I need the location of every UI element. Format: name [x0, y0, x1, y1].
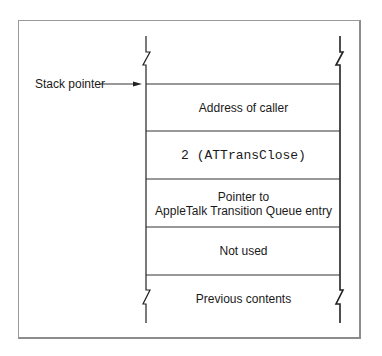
- cell-not-used: Not used: [147, 244, 340, 258]
- cell-line: Address of caller: [147, 101, 340, 115]
- cell-line: 2 (ATTransClose): [147, 149, 340, 163]
- cell-line: AppleTalk Transition Queue entry: [147, 204, 340, 218]
- cell-line: Pointer to: [147, 190, 340, 204]
- cell-line: Not used: [147, 244, 340, 258]
- cell-line: Previous contents: [147, 292, 340, 306]
- cell-selector: 2 (ATTransClose): [147, 149, 340, 163]
- stack-pointer-arrowhead-icon: [133, 82, 142, 87]
- stack-pointer-label: Stack pointer: [35, 77, 105, 91]
- cell-address-of-caller: Address of caller: [147, 101, 340, 115]
- previous-contents-label: Previous contents: [147, 292, 340, 306]
- cell-queue-entry-pointer: Pointer to AppleTalk Transition Queue en…: [147, 190, 340, 218]
